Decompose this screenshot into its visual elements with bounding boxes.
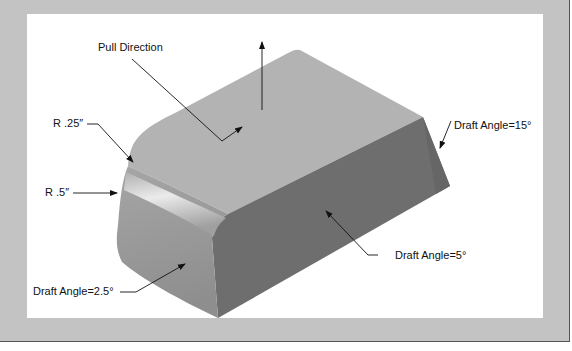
radius-large-label: R .5″ (45, 186, 69, 199)
pull-direction-label: Pull Direction (98, 41, 163, 54)
draft-end-leader (440, 121, 451, 148)
draft-end-label: Draft Angle=15° (454, 119, 531, 132)
molded-part-illustration (0, 0, 572, 351)
draft-side-label: Draft Angle=5° (395, 249, 466, 262)
radius-small-label: R .25″ (53, 117, 83, 130)
draft-front-label: Draft Angle=2.5° (33, 285, 114, 298)
radius-small-leader (87, 124, 133, 162)
